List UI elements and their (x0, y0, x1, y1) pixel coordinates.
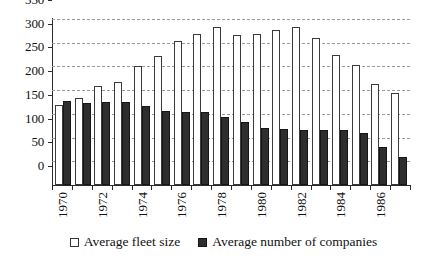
x-tick-label: 1972 (95, 192, 111, 218)
bar-average-fleet-size (352, 65, 360, 185)
x-axis-ticks (52, 186, 410, 191)
bar-average-fleet-size (193, 34, 201, 185)
bar-average-number-of-companies (320, 130, 328, 185)
bar-average-number-of-companies (122, 102, 130, 185)
bar-group (251, 19, 271, 185)
bar-group (93, 19, 113, 185)
bar-average-fleet-size (371, 84, 379, 185)
x-tick-label: 1986 (373, 192, 389, 218)
y-axis-tick-labels: 050100150200250300350 (0, 0, 50, 166)
bar-average-number-of-companies (201, 112, 209, 186)
x-tick-label: 1982 (294, 192, 310, 218)
bar-average-number-of-companies (379, 147, 387, 185)
chart-legend: Average fleet sizeAverage number of comp… (0, 234, 447, 250)
y-tick-label: 100 (25, 111, 44, 127)
x-tick-label: 1970 (55, 192, 71, 218)
x-tick-label: 1978 (214, 192, 230, 218)
bar-average-fleet-size (94, 86, 102, 185)
bar-group (389, 19, 409, 185)
bar-average-fleet-size (253, 34, 261, 185)
y-tick-label: 250 (25, 39, 44, 55)
x-tick-label: 1980 (254, 192, 270, 218)
bar-average-number-of-companies (142, 106, 150, 185)
x-tick-mark (271, 186, 272, 190)
bar-average-fleet-size (332, 55, 340, 185)
x-tick-mark (171, 186, 172, 190)
x-tick-mark (132, 186, 133, 190)
bar-average-number-of-companies (340, 130, 348, 185)
bar-average-number-of-companies (300, 130, 308, 185)
x-tick-mark (330, 186, 331, 190)
x-tick-mark (311, 186, 312, 190)
y-tick-label: 200 (25, 63, 44, 79)
x-tick-mark (92, 186, 93, 190)
bar-average-fleet-size (233, 35, 241, 185)
bar-average-fleet-size (391, 93, 399, 185)
bar-average-fleet-size (174, 41, 182, 185)
x-tick-mark (52, 186, 53, 190)
bar-group (191, 19, 211, 185)
bar-average-number-of-companies (162, 111, 170, 185)
bar-group (231, 19, 251, 185)
x-tick-mark (112, 186, 113, 190)
y-tick-label: 150 (25, 87, 44, 103)
bar-average-number-of-companies (102, 102, 110, 185)
bar-average-fleet-size (114, 82, 122, 185)
bar-average-number-of-companies (221, 117, 229, 185)
bar-groups (52, 19, 410, 185)
y-tick-label: 350 (25, 0, 44, 8)
x-tick-mark (291, 186, 292, 190)
bar-average-fleet-size (75, 98, 83, 185)
bar-average-number-of-companies (241, 122, 249, 185)
bar-chart: 050100150200250300350 197019721974197619… (0, 0, 447, 260)
bar-group (73, 19, 93, 185)
bar-group (53, 19, 73, 185)
x-tick-mark (151, 186, 152, 190)
bar-average-fleet-size (272, 30, 280, 185)
legend-item: Average number of companies (198, 234, 377, 250)
x-tick-label: 1984 (333, 192, 349, 218)
legend-label: Average fleet size (84, 234, 180, 250)
bar-group (132, 19, 152, 185)
bar-group (211, 19, 231, 185)
x-tick-mark (191, 186, 192, 190)
x-tick-mark (72, 186, 73, 190)
black-square-icon (198, 238, 207, 247)
bar-average-fleet-size (154, 56, 162, 185)
bar-average-number-of-companies (63, 101, 71, 185)
bar-group (152, 19, 172, 185)
plot-area (52, 19, 410, 185)
bar-group (350, 19, 370, 185)
bar-average-fleet-size (134, 66, 142, 185)
bar-average-fleet-size (312, 38, 320, 185)
y-tick-label: 0 (38, 158, 44, 174)
bar-group (330, 19, 350, 185)
bar-group (172, 19, 192, 185)
bar-average-number-of-companies (399, 157, 407, 185)
bar-average-number-of-companies (182, 112, 190, 186)
bar-group (370, 19, 390, 185)
bar-group (112, 19, 132, 185)
x-tick-label: 1976 (174, 192, 190, 218)
white-square-icon (70, 238, 79, 247)
bar-average-number-of-companies (261, 128, 269, 185)
bar-average-number-of-companies (280, 129, 288, 185)
bar-average-number-of-companies (360, 133, 368, 185)
bar-average-fleet-size (292, 27, 300, 185)
y-tick-label: 300 (25, 16, 44, 32)
bar-group (310, 19, 330, 185)
y-tick-label: 50 (31, 134, 44, 150)
bar-group (290, 19, 310, 185)
x-tick-mark (350, 186, 351, 190)
bar-average-number-of-companies (83, 103, 91, 185)
bar-average-fleet-size (55, 105, 63, 185)
legend-item: Average fleet size (70, 234, 180, 250)
x-tick-mark (410, 186, 411, 190)
bar-group (271, 19, 291, 185)
x-tick-mark (370, 186, 371, 190)
x-tick-mark (231, 186, 232, 190)
x-tick-mark (390, 186, 391, 190)
x-tick-mark (211, 186, 212, 190)
x-tick-mark (251, 186, 252, 190)
bar-average-fleet-size (213, 27, 221, 185)
